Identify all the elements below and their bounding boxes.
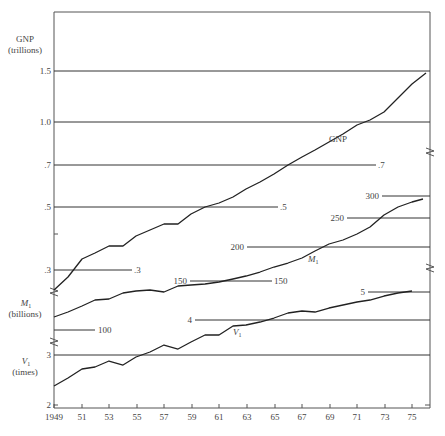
tick-label-v1-3: 3 [47, 350, 52, 360]
svg-text:61: 61 [215, 412, 224, 422]
axis-break-left-lower [50, 338, 58, 346]
tick-label-gnp-0.7: .7 [44, 160, 51, 170]
m1-axis-title: M1 [20, 298, 32, 309]
curve-label-v1: V1 [233, 327, 242, 338]
series-m1 [54, 199, 423, 317]
grid-label-gnp-0.3: .3 [134, 265, 141, 275]
tick-label-gnp-1.5: 1.5 [40, 66, 52, 76]
x-axis-ticks [54, 404, 412, 408]
gnp-axis-title: GNP [16, 34, 34, 44]
m1-axis-unit: (billions) [9, 309, 42, 319]
tick-label-gnp-1.0: 1.0 [40, 117, 52, 127]
series-v1 [54, 291, 412, 386]
grid-label-m1-150-left: 150 [174, 276, 188, 286]
grid-label-m1-100: 100 [98, 325, 112, 335]
svg-text:57: 57 [160, 412, 170, 422]
svg-text:73: 73 [381, 412, 391, 422]
svg-text:55: 55 [133, 412, 143, 422]
grid-label-gnp-0.7: .7 [378, 160, 385, 170]
svg-text:53: 53 [105, 412, 115, 422]
grid-label-m1-300: 300 [366, 191, 380, 201]
tick-label-gnp-0.3: .3 [44, 265, 51, 275]
grid-label-m1-200: 200 [231, 242, 245, 252]
svg-text:63: 63 [243, 412, 253, 422]
svg-text:75: 75 [408, 412, 418, 422]
v1-axis-unit: (times) [12, 367, 38, 377]
axis-break-right-lower [426, 264, 434, 272]
grid-label-v1-5: 5 [361, 287, 366, 297]
axis-break-right-upper [426, 148, 434, 156]
svg-text:51: 51 [78, 412, 87, 422]
curve-label-m1: M1 [307, 254, 319, 265]
v1-axis-title: V1 [22, 356, 31, 367]
series-gnp [54, 73, 426, 290]
gnp-axis-unit: (trillions) [8, 45, 42, 55]
svg-text:59: 59 [188, 412, 198, 422]
tick-label-v1-2: 2 [47, 400, 52, 410]
svg-text:1949: 1949 [45, 412, 64, 422]
svg-text:65: 65 [271, 412, 281, 422]
grid-label-gnp-0.5: .5 [280, 202, 287, 212]
grid-label-m1-150-right: 150 [274, 276, 288, 286]
svg-text:69: 69 [326, 412, 336, 422]
svg-text:67: 67 [298, 412, 308, 422]
economic-chart: GNP (trillions) M1 (billions) V1 (times)… [0, 0, 445, 436]
grid-label-m1-250: 250 [331, 213, 345, 223]
curve-label-gnp: GNP [329, 134, 347, 144]
grid-label-v1-4: 4 [188, 315, 193, 325]
svg-text:71: 71 [353, 412, 362, 422]
tick-label-gnp-0.5: .5 [44, 202, 51, 212]
x-axis-labels: 1949 51 53 55 57 59 61 63 65 67 69 71 73… [45, 412, 417, 422]
